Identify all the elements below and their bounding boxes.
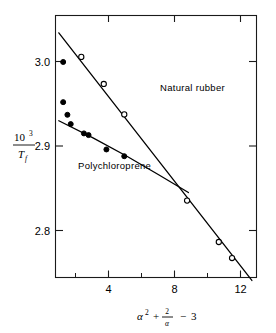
data-point — [61, 100, 66, 105]
series-natural-rubber — [59, 33, 252, 281]
x-axis-top-ticks — [109, 16, 241, 23]
x-axis-major-ticks — [109, 271, 241, 278]
y-axis-label-numerator: 10 — [14, 131, 26, 143]
axis-frame — [56, 16, 257, 278]
figure-container: 3.0 2.9 2.8 4 8 12 10 3 T f α 2 + 2 α − … — [0, 0, 276, 333]
x-axis-label-numerator: 2 — [165, 307, 169, 316]
series-layer — [59, 33, 252, 281]
y-axis-label-denominator: T — [18, 148, 25, 160]
x-axis-label-denominator: α — [165, 319, 170, 328]
x-axis-label-plus: + — [153, 310, 159, 322]
y-tick-label-2-8: 2.8 — [35, 225, 50, 237]
data-point — [104, 147, 109, 152]
data-point — [101, 81, 106, 86]
data-point — [68, 122, 73, 127]
data-point — [122, 154, 127, 159]
y-axis-label: 10 3 T f — [13, 129, 35, 163]
x-axis-label-constant: 3 — [191, 310, 197, 322]
x-axis-minor-ticks — [76, 273, 208, 278]
series-polychloroprene — [59, 59, 189, 192]
x-tick-label-12: 12 — [234, 283, 246, 295]
data-point — [79, 54, 84, 59]
y-axis-label-numerator-exponent: 3 — [29, 129, 33, 138]
data-point — [216, 239, 221, 244]
y-axis-label-denominator-subscript: f — [25, 154, 28, 163]
x-tick-label-4: 4 — [105, 283, 111, 295]
y-tick-label-3-0: 3.0 — [35, 56, 50, 68]
x-axis-label-alpha: α — [137, 310, 143, 322]
data-point — [229, 255, 234, 260]
x-axis-label-exponent: 2 — [145, 308, 149, 317]
series-label-polychloroprene: Polychloroprene — [78, 160, 151, 171]
series-trend-line — [59, 33, 252, 281]
data-point — [122, 112, 127, 117]
data-point — [184, 198, 189, 203]
y-axis-major-ticks — [56, 62, 64, 231]
data-point — [65, 112, 70, 117]
series-label-natural-rubber: Natural rubber — [160, 82, 225, 93]
data-point — [86, 133, 91, 138]
y-axis-right-ticks — [249, 62, 257, 231]
x-axis-label: α 2 + 2 α − 3 — [137, 307, 197, 328]
y-tick-label-2-9: 2.9 — [35, 140, 50, 152]
x-axis-label-minus: − — [180, 310, 186, 322]
data-point — [61, 59, 66, 64]
chart-plot: 3.0 2.9 2.8 4 8 12 10 3 T f α 2 + 2 α − … — [0, 0, 276, 333]
x-tick-label-8: 8 — [171, 283, 177, 295]
